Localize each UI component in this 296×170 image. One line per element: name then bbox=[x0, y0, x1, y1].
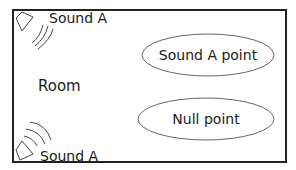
sound-a-point-label: Sound A point bbox=[159, 47, 258, 63]
source-label-bottom: Sound A bbox=[40, 148, 99, 164]
source-label-top: Sound A bbox=[49, 10, 108, 26]
sound-wave-icon bbox=[24, 122, 51, 146]
speaker-icon bbox=[16, 12, 33, 31]
speaker-icon bbox=[16, 141, 33, 160]
sound-wave-icon bbox=[32, 25, 53, 49]
room-diagram: Sound A Room Sound A Sound A point Null … bbox=[0, 0, 296, 170]
room-label: Room bbox=[38, 77, 81, 95]
null-point-label: Null point bbox=[172, 111, 240, 127]
